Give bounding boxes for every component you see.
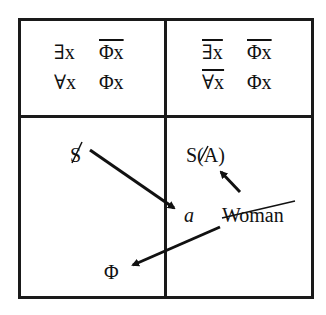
woman-bar-slash <box>222 201 295 218</box>
a-bar-slash <box>200 146 208 161</box>
arrow-woman-to-phi <box>133 227 220 265</box>
arrows-layer <box>0 0 326 315</box>
s-bar-slash <box>72 142 82 163</box>
arrow-s-to-a <box>90 150 174 208</box>
arrow-to-s-of-a <box>221 172 240 192</box>
